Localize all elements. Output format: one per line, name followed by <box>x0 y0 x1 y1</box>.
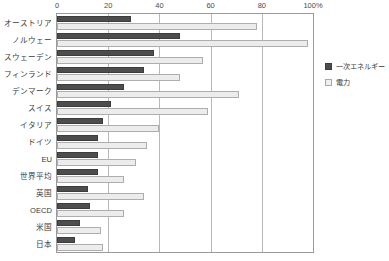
bars-layer <box>57 14 313 252</box>
bar-primary <box>57 16 131 23</box>
bar-primary <box>57 33 180 40</box>
category-label: 日本 <box>36 239 52 248</box>
category-label: スウェーデン <box>4 52 52 61</box>
legend-label: 電力 <box>336 78 350 87</box>
category-label: スイス <box>28 103 52 112</box>
category-label: ノルウェー <box>12 35 52 44</box>
category-label: デンマーク <box>12 86 52 95</box>
x-tick-label: 100% <box>303 1 322 10</box>
bar-electricity <box>57 125 159 132</box>
bar-primary <box>57 152 98 159</box>
bar-electricity <box>57 142 147 149</box>
bar-electricity <box>57 57 203 64</box>
category-label: ドイツ <box>28 137 52 146</box>
bar-primary <box>57 84 124 91</box>
bar-electricity <box>57 23 257 30</box>
bar-electricity <box>57 40 308 47</box>
x-tick-label: 40 <box>155 1 163 10</box>
bar-primary <box>57 169 98 176</box>
legend-swatch-icon <box>325 79 332 86</box>
bar-primary <box>57 203 90 210</box>
category-label: 世界平均 <box>20 171 52 180</box>
bar-primary <box>57 220 80 227</box>
category-label: フィンランド <box>4 69 52 78</box>
legend-item: 電力 <box>325 76 389 89</box>
bar-electricity <box>57 91 239 98</box>
category-label: 英国 <box>36 188 52 197</box>
x-tick-label: 60 <box>206 1 214 10</box>
x-axis-tick-labels: 020406080100% <box>0 0 389 14</box>
category-label: イタリア <box>20 120 52 129</box>
bar-primary <box>57 118 103 125</box>
bar-electricity <box>57 227 101 234</box>
y-axis-category-labels: オーストリアノルウェースウェーデンフィンランドデンマークスイスイタリアドイツEU… <box>0 13 54 253</box>
category-label: OECD <box>30 205 52 214</box>
bar-electricity <box>57 193 144 200</box>
x-tick-label: 80 <box>258 1 266 10</box>
category-label: オーストリア <box>4 18 52 27</box>
bar-electricity <box>57 210 124 217</box>
bar-primary <box>57 135 98 142</box>
bar-primary <box>57 237 75 244</box>
legend-item: 一次エネルギー <box>325 60 389 73</box>
legend-label: 一次エネルギー <box>336 62 385 71</box>
renewable-energy-share-bar-chart: 020406080100% オーストリアノルウェースウェーデンフィンランドデンマ… <box>0 0 389 261</box>
x-tick-label: 0 <box>55 1 59 10</box>
category-label: EU <box>41 154 52 163</box>
bar-primary <box>57 67 144 74</box>
bar-electricity <box>57 74 180 81</box>
category-label: 米国 <box>36 222 52 231</box>
bar-primary <box>57 50 154 57</box>
bar-electricity <box>57 159 136 166</box>
x-tick-label: 20 <box>104 1 112 10</box>
legend-swatch-icon <box>325 63 332 70</box>
chart-legend: 一次エネルギー電力 <box>325 60 389 92</box>
bar-electricity <box>57 176 124 183</box>
bar-primary <box>57 186 88 193</box>
bar-electricity <box>57 244 103 251</box>
bar-primary <box>57 101 111 108</box>
bar-electricity <box>57 108 208 115</box>
